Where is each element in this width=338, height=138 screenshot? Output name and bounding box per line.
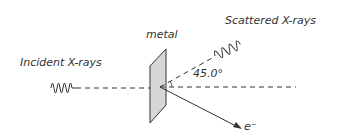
scattered-xrays-label: Scattered X-rays	[225, 14, 316, 27]
metal-label: metal	[146, 28, 178, 41]
metal-plate	[150, 49, 166, 123]
incident-wave-icon	[51, 83, 76, 93]
scattered-wave-icon	[213, 40, 242, 60]
angle-label: 45.0°	[193, 67, 223, 80]
electron-label: e⁻	[244, 120, 257, 133]
angle-arc	[170, 81, 172, 87]
compton-scattering-diagram: metal Incident X-rays Scattered X-rays 4…	[0, 0, 338, 138]
incident-xrays-label: Incident X-rays	[20, 56, 102, 69]
electron-path-line	[160, 87, 238, 127]
electron-arrowhead-icon	[233, 122, 242, 129]
